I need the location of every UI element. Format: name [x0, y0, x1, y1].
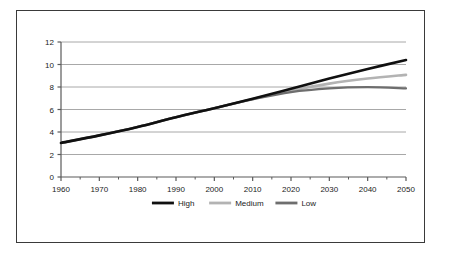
y-tick-label: 4 [50, 128, 55, 137]
x-tick-label: 2020 [282, 185, 300, 194]
x-tick-label: 2000 [205, 185, 223, 194]
y-tick-label: 8 [50, 83, 55, 92]
x-tick-label: 1980 [129, 185, 147, 194]
series-line-high [61, 60, 406, 143]
grid-lines [61, 42, 406, 155]
y-tick-label: 6 [50, 106, 55, 115]
chart-legend: HighMediumLow [152, 199, 316, 208]
y-axis-tick-labels: 024681012 [45, 38, 54, 182]
y-tick-label: 0 [50, 173, 55, 182]
x-tick-label: 2040 [359, 185, 377, 194]
chart-frame: 024681012 196019701980199020002010202020… [16, 10, 425, 243]
y-axis [58, 42, 62, 177]
y-tick-label: 10 [45, 61, 54, 70]
data-series-group [61, 60, 406, 143]
x-tick-label: 1970 [90, 185, 108, 194]
line-chart: 024681012 196019701980199020002010202020… [17, 11, 426, 244]
x-tick-label: 2050 [397, 185, 415, 194]
x-tick-label: 2010 [244, 185, 262, 194]
legend-label-low: Low [301, 199, 316, 208]
series-line-low [61, 87, 406, 143]
x-axis [61, 177, 406, 181]
x-tick-label: 2030 [320, 185, 338, 194]
y-tick-label: 2 [50, 151, 55, 160]
legend-label-medium: Medium [235, 199, 264, 208]
x-tick-label: 1990 [167, 185, 185, 194]
x-tick-label: 1960 [52, 185, 70, 194]
legend-label-high: High [178, 199, 194, 208]
x-axis-tick-labels: 1960197019801990200020102020203020402050 [52, 185, 415, 194]
y-tick-label: 12 [45, 38, 54, 47]
